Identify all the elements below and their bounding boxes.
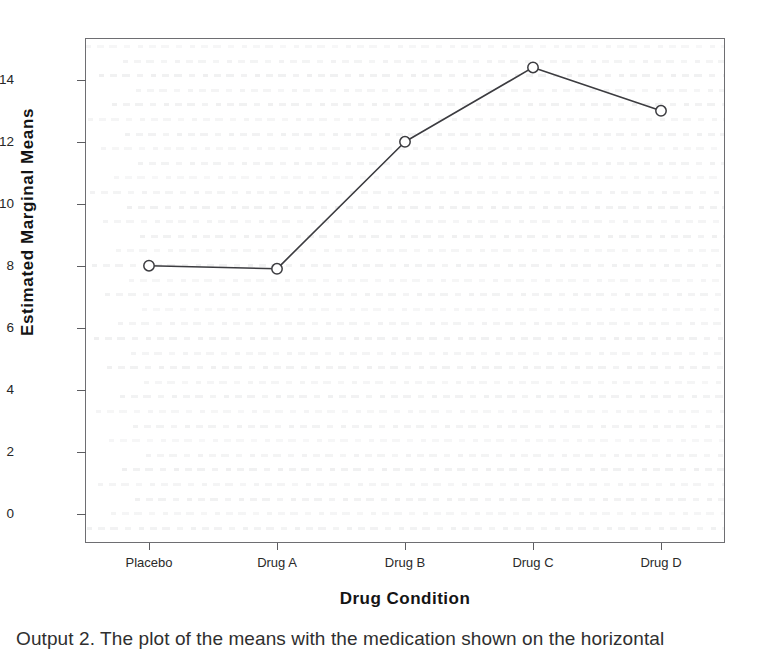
y-axis-tick [77,514,86,515]
x-axis-title: Drug Condition [85,589,725,609]
y-axis-tick [77,80,86,81]
x-axis-tick [405,543,406,550]
y-axis-tick-label: 8 [0,259,14,273]
y-axis-tick-label: 0 [0,507,14,521]
x-axis-tick-label: Drug B [340,555,470,570]
y-axis-tick [77,328,86,329]
y-axis-tick-label: 6 [0,321,14,335]
x-axis-tick-label: Drug C [468,555,598,570]
x-axis-tick-label: Drug D [596,555,726,570]
y-axis-tick [77,142,86,143]
y-axis-tick [77,452,86,453]
plot-frame [85,38,725,543]
y-axis-tick-label: 10 [0,197,14,211]
figure-caption: Output 2. The plot of the means with the… [16,628,746,650]
x-axis-tick-label: Placebo [84,555,214,570]
y-axis-tick-label: 12 [0,135,14,149]
x-axis-tick [149,543,150,550]
x-axis-tick [661,543,662,550]
y-axis-tick [77,204,86,205]
y-axis-tick [77,266,86,267]
y-axis-tick [77,390,86,391]
y-axis-tick-label: 2 [0,445,14,459]
x-axis-tick [277,543,278,550]
y-axis-title: Estimated Marginal Means [18,12,38,432]
x-axis-tick [533,543,534,550]
y-axis-tick-label: 14 [0,73,14,87]
y-axis-tick-label: 4 [0,383,14,397]
x-axis-tick-label: Drug A [212,555,342,570]
